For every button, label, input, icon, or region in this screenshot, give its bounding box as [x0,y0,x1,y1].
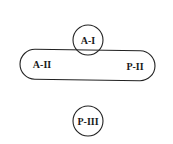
node-a-ii-label: A-II [33,59,51,70]
node-a-i-label: A-I [81,35,96,46]
diagram-canvas: A-I A-II P-II P-III [0,0,173,144]
node-group-capsule: A-II P-II [20,49,155,81]
node-p-iii: P-III [73,106,103,136]
node-p-ii-label: P-II [126,61,143,72]
node-p-iii-label: P-III [77,116,98,127]
